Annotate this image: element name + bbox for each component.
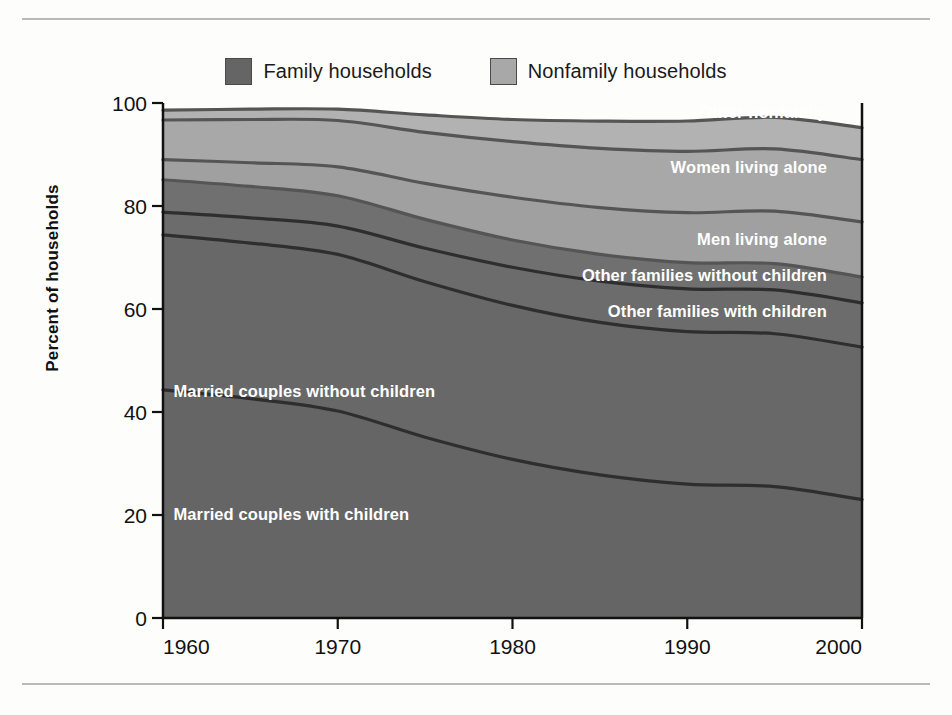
y-tick-label: 80 (124, 195, 147, 218)
y-tick-label: 20 (124, 504, 147, 527)
x-tick-label: 1990 (664, 635, 711, 658)
series-label: Other families with children (608, 302, 827, 320)
series-label: Married couples with children (173, 505, 409, 523)
y-tick-label: 40 (124, 401, 147, 424)
series-label: Married couples without children (173, 382, 435, 400)
x-tick-label: 2000 (815, 635, 862, 658)
x-tick-label: 1980 (489, 635, 536, 658)
x-tick-label: 1970 (314, 635, 361, 658)
y-tick-label: 60 (124, 298, 147, 321)
x-tick-label: 1960 (163, 635, 210, 658)
y-tick-label: 0 (135, 607, 147, 630)
stacked-area-chart: 02040608010019601970198019902000Other no… (0, 0, 952, 715)
series-label: Other families without children (582, 266, 827, 284)
chart-area: Percent of households 020406080100196019… (0, 0, 952, 715)
series-label: Women living alone (671, 158, 827, 176)
series-label: Men living alone (697, 230, 827, 248)
series-label: Other nonfamily (699, 103, 828, 121)
y-tick-label: 100 (112, 92, 147, 115)
